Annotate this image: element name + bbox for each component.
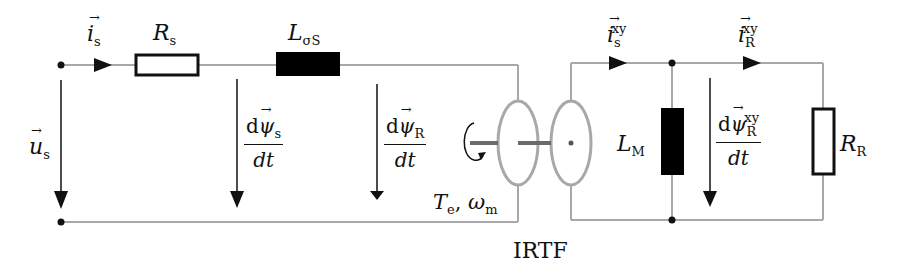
stator-flux-arrowhead-icon	[230, 191, 244, 208]
subscript: s	[614, 35, 621, 50]
symbol: L	[617, 131, 632, 156]
d-operator: d	[246, 114, 259, 138]
magnetizing-inductor-label: LM	[617, 133, 645, 158]
subscript: M	[632, 144, 645, 159]
vector-symbol: i	[607, 24, 614, 46]
separator: ,	[455, 190, 462, 214]
rotor-resistor-label: RR	[840, 133, 866, 158]
stator-current-arrow-icon	[94, 58, 112, 72]
irtf-label: IRTF	[513, 240, 568, 262]
stator-current-xy-arrow-icon	[609, 56, 627, 70]
vector-symbol: i	[87, 23, 94, 45]
psi-symbol: ψ	[259, 114, 275, 138]
stator-current-label: is	[87, 23, 101, 48]
rotor-resistor	[813, 109, 834, 174]
stator-resistor-label: Rs	[153, 22, 176, 47]
psi-symbol: ψ	[731, 112, 747, 136]
terminal-bottom-node	[58, 219, 65, 226]
rotor-flux-xy-arrowhead-icon	[703, 191, 717, 207]
subscript: s	[94, 34, 101, 49]
stator-current-xy-label: isxy	[607, 22, 626, 49]
subscript: R	[747, 124, 757, 139]
irtf-transformer	[464, 101, 591, 185]
subscript: R	[415, 126, 425, 141]
leakage-inductor-label: LσS	[288, 22, 320, 47]
subscript: σS	[303, 33, 321, 48]
symbol: R	[840, 131, 857, 156]
subscript: R	[857, 144, 867, 159]
subscript: s	[43, 147, 50, 162]
d-operator: d	[386, 114, 399, 138]
vector-symbol: i	[738, 24, 745, 46]
magnetizing-inductor	[661, 108, 684, 175]
rotor-current-xy-label: iRxy	[738, 22, 758, 49]
circuit-diagram	[0, 0, 898, 275]
junction-top-node	[669, 60, 676, 67]
stator-voltage-arrowhead-icon	[54, 191, 68, 209]
rotor-center-dot-icon	[569, 141, 574, 146]
rotor-flux-arrowhead-icon	[370, 191, 384, 200]
torque-symbol: T	[433, 190, 447, 214]
vector-symbol: u	[29, 136, 43, 158]
rotor-current-xy-arrow-icon	[743, 56, 761, 70]
rotor-flux-xy-derivative-label: dψRxy dt	[716, 110, 761, 170]
speed-symbol: ω	[468, 190, 485, 214]
symbol: R	[153, 20, 170, 45]
subscript: s	[170, 33, 177, 48]
stator-voltage-label: us	[29, 136, 50, 161]
rotor-wires	[571, 63, 823, 220]
symbol: L	[288, 20, 303, 45]
subscript: m	[485, 202, 497, 217]
subscript: s	[275, 126, 282, 141]
leakage-inductor	[276, 52, 340, 76]
terminal-top-node	[58, 62, 65, 69]
subscript: e	[447, 202, 455, 217]
rotor-flux-derivative-label: dψR dt	[384, 114, 426, 172]
denominator: dt	[384, 145, 426, 172]
d-operator: d	[718, 112, 731, 136]
stator-resistor	[136, 55, 198, 75]
torque-speed-label: Te, ωm	[433, 192, 498, 216]
denominator: dt	[244, 145, 283, 172]
stator-flux-derivative-label: dψs dt	[244, 114, 283, 172]
psi-symbol: ψ	[399, 114, 415, 138]
denominator: dt	[716, 143, 761, 170]
junction-bottom-node	[669, 217, 676, 224]
subscript: R	[745, 35, 755, 50]
